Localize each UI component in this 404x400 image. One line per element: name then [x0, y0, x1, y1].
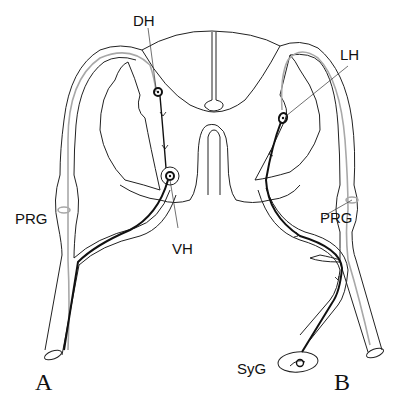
label-lateral-horn: LH	[340, 46, 359, 63]
left-nerve-root	[43, 46, 176, 362]
ventral-horn-neuron	[64, 167, 179, 350]
sympathetic-ganglion	[277, 350, 319, 373]
dh-leader-line	[148, 28, 156, 88]
lateral-horn-neuron	[266, 112, 342, 367]
label-panel-a: A	[35, 369, 53, 395]
label-dorsal-horn: DH	[133, 12, 155, 29]
label-ventral-horn: VH	[172, 240, 193, 257]
spinal-cord-diagram: DH LH VH PRG PRG SyG A B	[0, 0, 404, 400]
label-sympathetic-ganglion: SyG	[237, 360, 266, 377]
label-prg-right: PRG	[320, 209, 353, 226]
dorsal-horn-neuron	[154, 88, 168, 168]
label-panel-b: B	[334, 369, 350, 395]
vh-leader-line	[170, 180, 178, 228]
lh-leader-line	[286, 66, 348, 116]
label-prg-left: PRG	[15, 210, 48, 227]
